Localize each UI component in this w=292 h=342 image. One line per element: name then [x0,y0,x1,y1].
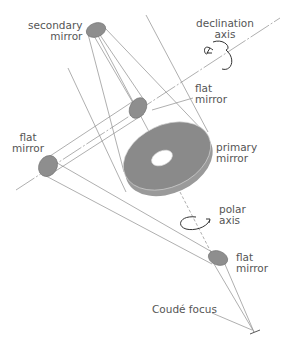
beam-secondary-left [88,34,124,172]
declination-rotation-arrow-icon [205,41,232,69]
leader-upper-flat [152,98,193,110]
beam-secondary-inner-1 [94,36,136,108]
label-flat-mirror-lower: flat mirror [236,252,268,274]
coude-telescope-diagram [0,0,292,342]
label-flat-mirror-upper: flat mirror [195,83,227,105]
beam-secondary-inner-2 [100,35,146,103]
leader-coude-focus [212,313,252,330]
polar-rotation-arrow-icon [181,217,210,230]
beam-left-to-lower-2 [46,176,212,264]
label-secondary-mirror: secondary mirror [28,20,82,42]
flat-mirror-upper [126,94,151,121]
label-flat-mirror-left: flat mirror [12,132,44,154]
label-primary-mirror: primary mirror [216,142,257,164]
beam-lower-to-focus-1 [214,264,254,332]
label-declination-axis: declination axis [196,18,254,40]
secondary-mirror [84,20,108,40]
flat-mirror-left [35,152,62,180]
tube-line-left [68,68,126,192]
label-polar-axis: polar axis [219,204,246,226]
coude-focus-marker [250,330,260,334]
label-coude-focus: Coudé focus [152,304,217,315]
polar-axis-line [180,192,214,258]
